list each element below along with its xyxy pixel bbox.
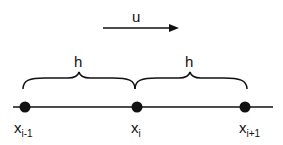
node-label-i-plus-1: xi+1 (239, 120, 260, 139)
spacing-label-right: h (185, 54, 193, 69)
node-point-i-minus-1 (20, 102, 31, 113)
velocity-label: u (132, 9, 140, 24)
node-point-i (132, 102, 143, 113)
node-label-subscript: i+1 (247, 128, 261, 139)
right-brace (135, 72, 247, 89)
node-label-base: x (131, 119, 139, 136)
node-point-i-plus-1 (240, 102, 251, 113)
left-brace (23, 72, 135, 89)
node-label-i-minus-1: xi-1 (14, 120, 33, 139)
velocity-arrow-icon (103, 24, 179, 32)
node-label-subscript: i-1 (22, 128, 33, 139)
node-label-i: xi (131, 120, 141, 139)
node-label-base: x (14, 119, 22, 136)
node-label-base: x (239, 119, 247, 136)
spacing-label-left: h (74, 54, 82, 69)
node-label-subscript: i (139, 128, 141, 139)
